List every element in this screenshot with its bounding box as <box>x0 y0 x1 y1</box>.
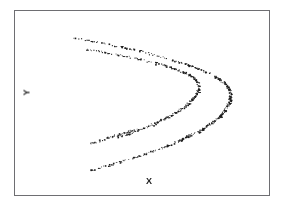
plot-frame <box>14 10 270 196</box>
y-axis-label: Y <box>23 86 32 100</box>
x-axis-label: X <box>140 177 158 186</box>
scatter-plot-figure: Y X <box>0 0 285 208</box>
